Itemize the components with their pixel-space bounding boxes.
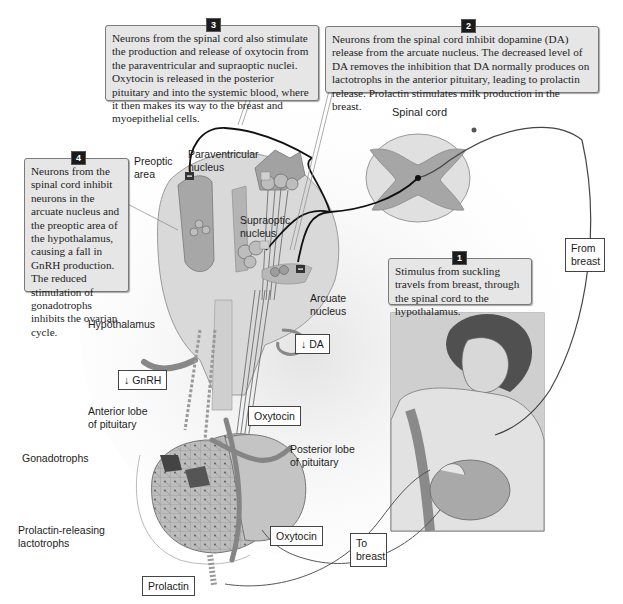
from-breast-text: From breast	[571, 242, 600, 267]
label-paraventricular-line1: Paraventricular	[188, 148, 259, 160]
label-paraventricular-line2: nucleus	[188, 161, 224, 173]
callout-1: 1 Stimulus from suckling travels from br…	[388, 258, 532, 305]
label-gonadotrophs: Gonadotrophs	[22, 452, 89, 464]
lactation-reflex-diagram: 3 Neurons from the spinal cord also stim…	[0, 0, 623, 604]
label-lactotrophs-line1: Prolactin-releasing	[18, 524, 105, 536]
label-from-breast: From breast	[565, 238, 605, 272]
label-spinal-cord: Spinal cord	[392, 106, 447, 118]
label-supraoptic-line2: nucleus	[240, 227, 276, 239]
label-posterior-lobe-line2: of pituitary	[290, 456, 338, 468]
label-preoptic-area-line2: area	[134, 168, 155, 180]
label-anterior-lobe-line2: of pituitary	[88, 418, 136, 430]
callout-text: Neurons from the spinal cord also stimul…	[112, 32, 309, 124]
label-posterior-lobe-line1: Posterior lobe	[290, 443, 355, 455]
step-badge: 2	[461, 19, 476, 33]
label-anterior-lobe-line1: Anterior lobe	[88, 405, 148, 417]
label-prolactin: Prolactin	[142, 576, 195, 596]
to-breast-text: To breast	[356, 537, 385, 562]
step-badge: 4	[71, 151, 86, 165]
label-arcuate-line2: nucleus	[310, 305, 346, 317]
face	[462, 338, 508, 393]
callout-3: 3 Neurons from the spinal cord also stim…	[105, 25, 319, 101]
label-oxytocin-top: Oxytocin	[248, 406, 301, 426]
callout-4: 4 Neurons from the spinal cord inhibit n…	[24, 158, 129, 292]
step-badge: 3	[206, 18, 221, 32]
label-lactotrophs-line2: lactotrophs	[18, 537, 69, 549]
label-arcuate-line1: Arcuate	[310, 292, 346, 304]
label-to-breast: To breast	[350, 533, 387, 567]
callout-2: 2 Neurons from the spinal cord inhibit d…	[325, 26, 599, 93]
step-badge: 1	[452, 251, 467, 265]
callout-text: Neurons from the spinal cord inhibit neu…	[31, 165, 119, 338]
label-decreased-da: ↓ DA	[295, 334, 330, 354]
label-supraoptic-line1: Supraoptic	[240, 214, 290, 226]
label-hypothalamus: Hypothalamus	[88, 318, 155, 330]
label-preoptic-area-line1: Preoptic	[134, 155, 173, 167]
label-oxytocin-bottom: Oxytocin	[270, 526, 323, 546]
label-decreased-gnrh: ↓ GnRH	[118, 370, 167, 390]
